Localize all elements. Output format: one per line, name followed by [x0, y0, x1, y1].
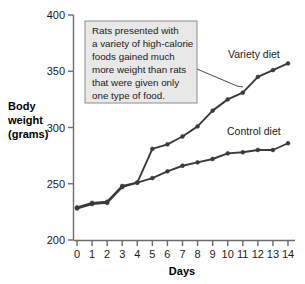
data-point-marker [166, 142, 170, 146]
y-tick-label: 300 [47, 122, 65, 134]
y-tick-label: 400 [47, 9, 65, 21]
x-tick-label: 8 [195, 248, 201, 260]
x-tick-label: 1 [89, 248, 95, 260]
x-tick-label: 10 [222, 248, 234, 260]
data-point-marker [181, 135, 185, 139]
x-tick-label: 3 [119, 248, 125, 260]
data-point-marker [241, 150, 245, 154]
data-point-marker [286, 61, 290, 65]
x-tick-label: 2 [104, 248, 110, 260]
data-point-marker [196, 160, 200, 164]
y-tick-label: 200 [47, 234, 65, 246]
x-tick-label: 4 [134, 248, 140, 260]
data-point-marker [256, 148, 260, 152]
annotation-line-1: Rats presented with [92, 25, 179, 36]
data-point-marker [105, 201, 109, 205]
chart-canvas: 200250300350400 01234567891011121314 Bod… [0, 0, 305, 284]
data-point-marker [75, 207, 79, 211]
series-label-control-diet: Control diet [227, 125, 281, 137]
annotation-line-2: a variety of high-calorie [92, 38, 194, 49]
x-tick-label: 11 [237, 248, 248, 260]
data-point-marker [241, 91, 245, 95]
annotation-line-6: one type of food. [92, 90, 165, 101]
x-tick-label: 7 [179, 248, 185, 260]
data-point-marker [150, 176, 154, 180]
x-tick-label: 5 [149, 248, 155, 260]
series-line-control-diet [77, 143, 288, 208]
data-point-marker [120, 185, 124, 189]
annotation-line-5: that were given only [92, 77, 179, 88]
y-axis-title-line-3: (grams) [8, 128, 49, 140]
y-tick-label: 350 [47, 65, 65, 77]
data-point-marker [150, 147, 154, 151]
series-label-variety-diet: Variety diet [228, 48, 280, 60]
x-axis-ticks: 01234567891011121314 [74, 241, 294, 261]
x-tick-label: 13 [267, 248, 279, 260]
data-point-marker [166, 169, 170, 173]
y-axis-title-line-2: weight [7, 114, 43, 126]
data-point-marker [135, 181, 139, 185]
data-point-marker [211, 109, 215, 113]
data-point-marker [271, 68, 275, 72]
y-axis-ticks: 200250300350400 [47, 9, 74, 246]
data-point-marker [256, 75, 260, 79]
data-point-marker [226, 97, 230, 101]
annotation-leader-line [197, 69, 243, 87]
annotation-line-4: more weight than rats [92, 64, 186, 75]
x-tick-label: 6 [164, 248, 170, 260]
data-point-marker [271, 148, 275, 152]
y-tick-label: 250 [47, 178, 65, 190]
data-point-marker [286, 141, 290, 145]
x-axis-title: Days [169, 265, 195, 277]
data-point-marker [196, 124, 200, 128]
annotation-line-3: foods gained much [92, 51, 175, 62]
x-tick-label: 12 [252, 248, 264, 260]
x-tick-label: 0 [74, 248, 80, 260]
data-point-marker [226, 151, 230, 155]
data-point-marker [90, 202, 94, 206]
y-axis-title-line-1: Body [8, 100, 36, 112]
data-point-marker [211, 157, 215, 161]
x-tick-label: 9 [210, 248, 216, 260]
data-point-marker [181, 164, 185, 168]
annotation-callout: Rats presented with a variety of high-ca… [85, 21, 197, 103]
rat-weight-line-chart: 200250300350400 01234567891011121314 Bod… [0, 0, 305, 284]
x-tick-label: 14 [282, 248, 294, 260]
